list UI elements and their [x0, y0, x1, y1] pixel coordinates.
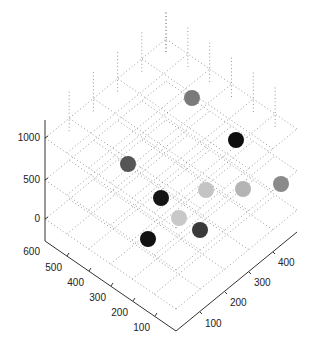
- data-point: [120, 156, 136, 172]
- data-point: [228, 132, 244, 148]
- x-tick-label: 200: [230, 297, 247, 308]
- y-tick-label: 600: [23, 246, 40, 257]
- axes: [45, 120, 297, 331]
- z-tick-label: 1000: [18, 132, 41, 143]
- data-point: [235, 181, 251, 197]
- y-tick-label: 500: [45, 262, 62, 273]
- x-tick-label: 400: [278, 257, 295, 268]
- y-tick-label: 200: [111, 307, 128, 318]
- 3d-scatter-chart: 1000 500 0 600 500 400 300 200 100 100 2…: [0, 0, 311, 355]
- z-axis-ticks: 1000 500 0: [18, 132, 48, 224]
- x-axis-line: [176, 232, 297, 331]
- data-point: [184, 90, 200, 106]
- data-point: [273, 176, 289, 192]
- y-axis-ticks: 600 500 400 300 200 100: [23, 246, 157, 333]
- data-point: [192, 222, 208, 238]
- data-point: [198, 182, 214, 198]
- x-tick-label: 300: [254, 277, 271, 288]
- x-tick-label: 100: [205, 318, 222, 329]
- z-tick-label: 500: [23, 174, 40, 185]
- data-point: [153, 190, 169, 206]
- x-axis-ticks: 100 200 300 400: [200, 252, 295, 329]
- grid-lines: [45, 11, 297, 309]
- y-tick-label: 400: [67, 277, 84, 288]
- data-point: [140, 231, 156, 247]
- z-tick-label: 0: [34, 213, 40, 224]
- data-point: [171, 210, 187, 226]
- y-tick-label: 100: [133, 322, 150, 333]
- y-tick-label: 300: [89, 292, 106, 303]
